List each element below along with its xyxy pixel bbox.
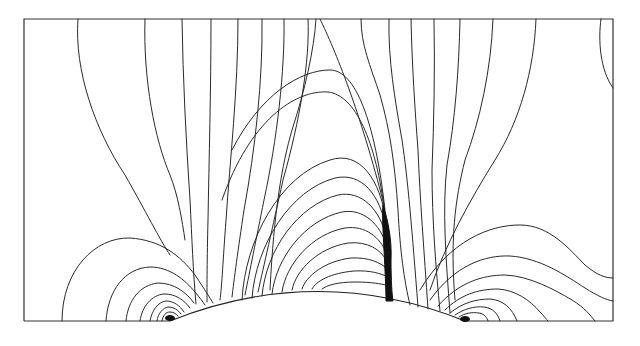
isolines-right: [361, 19, 613, 313]
contour-plot: [0, 0, 640, 346]
isolines-left: [78, 19, 316, 304]
isolines-trailing-edge: [420, 225, 613, 322]
isolines-leading-edge: [62, 238, 213, 321]
shock-wave: [383, 205, 393, 301]
channel-frame: [24, 19, 613, 321]
bump-surface: [170, 292, 465, 322]
contour-figure: [0, 0, 640, 346]
isolines-center: [222, 19, 386, 300]
